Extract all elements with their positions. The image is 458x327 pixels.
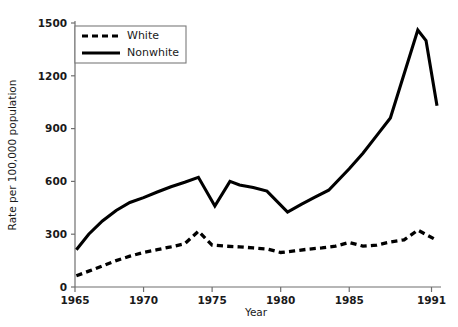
chart-legend: WhiteNonwhite [75,26,186,63]
y-axis-tick-label: 0 [60,281,67,293]
x-axis-tick-label: 1985 [335,294,364,306]
line-chart: 030060090012001500 196519701975198019851… [0,0,458,327]
x-axis-title: Year [244,306,268,318]
chart-background [0,0,458,327]
x-axis-tick-label: 1970 [129,294,158,306]
y-axis-tick-label: 900 [45,122,67,134]
x-axis-tick-label: 1991 [417,294,446,306]
x-axis-tick-label: 1975 [198,294,227,306]
chart-plot-area: 030060090012001500 196519701975198019851… [0,0,458,327]
x-axis-tick-label: 1980 [266,294,295,306]
y-axis-tick-label: 600 [45,175,67,187]
y-axis-tick-label: 300 [45,228,67,240]
x-axis-tick-label: 1965 [60,294,89,306]
y-axis-tick-label: 1200 [38,70,67,82]
legend-label-white: White [127,29,159,42]
legend-label-nonwhite: Nonwhite [127,46,179,59]
y-axis-title: Rate per 100,000 population [6,80,18,231]
y-axis-tick-label: 1500 [38,17,67,29]
